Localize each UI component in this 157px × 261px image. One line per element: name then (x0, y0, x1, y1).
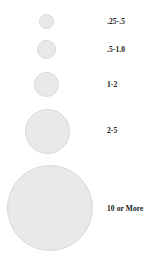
legend-symbol-circle (25, 109, 70, 154)
legend-label: 10 or More (107, 204, 144, 213)
legend-label: .5-1.0 (107, 45, 125, 54)
legend-label: 1-2 (107, 80, 117, 89)
proportional-symbol-legend: .25-.5 .5-1.0 1-2 2-5 10 or More (0, 0, 157, 261)
legend-symbol-circle (34, 72, 59, 97)
legend-label: 2-5 (107, 126, 117, 135)
legend-label: .25-.5 (107, 17, 125, 26)
legend-symbol-circle (37, 40, 56, 59)
legend-symbol-circle (7, 165, 93, 251)
legend-symbol-circle (39, 14, 54, 29)
